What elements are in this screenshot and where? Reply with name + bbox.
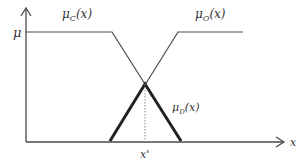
x-axis-label: x (290, 136, 297, 149)
mu-c-curve (26, 32, 181, 141)
mu-d-label: μD(x) (172, 101, 200, 116)
mu-o-label: μO(x) (195, 7, 226, 23)
y-axis-label: μ (13, 25, 21, 40)
x-star-label: x' (140, 148, 149, 161)
fuzzy-diagram: μ x μC(x) μO(x) μD(x) x' (0, 0, 308, 163)
mu-c-label: μC(x) (62, 7, 92, 23)
mu-o-curve (110, 32, 243, 141)
